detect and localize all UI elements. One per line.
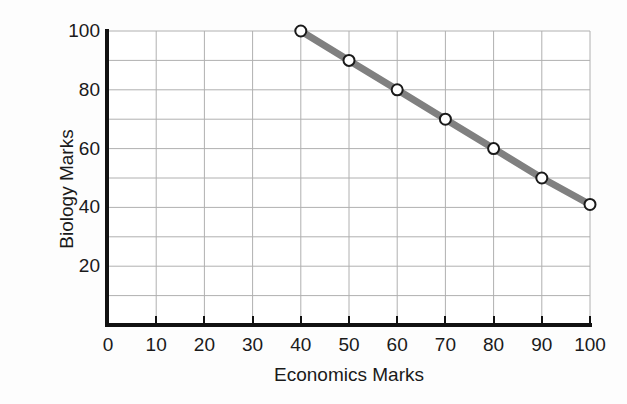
x-tick-mark: [300, 316, 302, 325]
x-tick-label: 80: [483, 334, 504, 356]
x-tick-mark: [396, 316, 398, 325]
x-tick-label: 0: [103, 334, 114, 356]
x-axis-title: Economics Marks: [108, 364, 590, 386]
x-tick-label: 20: [194, 334, 215, 356]
x-tick-label: 30: [242, 334, 263, 356]
x-tick-mark: [589, 316, 591, 325]
x-tick-mark: [203, 316, 205, 325]
x-tick-mark: [541, 316, 543, 325]
x-tick-mark: [493, 316, 495, 325]
x-tick-label: 10: [146, 334, 167, 356]
x-tick-label: 100: [574, 334, 606, 356]
data-point-marker: [295, 26, 306, 37]
data-point-marker: [488, 143, 499, 154]
x-tick-mark: [155, 316, 157, 325]
x-tick-label: 70: [435, 334, 456, 356]
y-axis-line: [105, 29, 109, 327]
data-point-marker: [440, 114, 451, 125]
x-tick-mark: [348, 316, 350, 325]
x-tick-label: 60: [387, 334, 408, 356]
scatter-line-chart: 0102030405060708090100 20406080100 Econo…: [0, 0, 627, 404]
data-point-marker: [536, 173, 547, 184]
plot-area: [108, 31, 590, 325]
data-point-marker: [344, 55, 355, 66]
data-series: [108, 31, 590, 325]
y-tick-label: 100: [40, 20, 100, 42]
x-tick-mark: [444, 316, 446, 325]
x-tick-label: 40: [290, 334, 311, 356]
x-tick-mark: [252, 316, 254, 325]
x-tick-label: 90: [531, 334, 552, 356]
y-axis-title: Biology Marks: [56, 42, 78, 336]
data-point-marker: [392, 84, 403, 95]
x-tick-label: 50: [338, 334, 359, 356]
data-point-marker: [585, 199, 596, 210]
